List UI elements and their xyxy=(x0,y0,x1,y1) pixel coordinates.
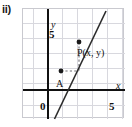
coordinate-plot: 5 0 5 y x P(x, y) A xyxy=(22,8,124,118)
line-through-A-and-P xyxy=(55,11,107,119)
x-axis-label: x xyxy=(116,81,120,91)
point-P-marker xyxy=(77,40,82,45)
y-axis-label: y xyxy=(51,20,55,30)
y-tick-label-5: 5 xyxy=(49,29,55,40)
figure-screenshot: ii) xyxy=(0,0,132,127)
point-A-label: A xyxy=(56,79,63,89)
origin-label: 0 xyxy=(40,101,46,112)
point-P-label: P(x, y) xyxy=(77,48,104,58)
x-tick-label-5: 5 xyxy=(109,101,115,112)
part-label: ii) xyxy=(2,3,11,15)
point-A-marker xyxy=(59,69,64,74)
